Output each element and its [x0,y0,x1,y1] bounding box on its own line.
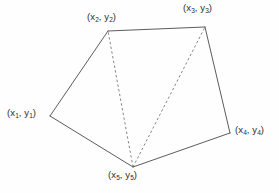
polygon-edge-v5-v1 [50,116,133,167]
vertex-label-v1-sub-x: 1 [15,112,19,119]
vertex-label-v1-close: ) [33,107,36,118]
vertex-label-v1: (x1, y1) [7,108,36,118]
vertex-label-v5-open: (x [108,169,116,180]
vertex-label-v2-sub-y: 2 [109,16,113,23]
vertex-label-v1-sub-y: 1 [29,112,33,119]
vertex-label-v3-sub-x: 3 [191,7,195,14]
polygon-edge-v4-v5 [133,133,230,167]
vertex-label-v4-sub-x: 4 [243,129,247,136]
vertex-label-v2-close: ) [113,11,116,22]
vertex-label-v3-open: (x [183,2,191,13]
vertex-label-v5: (x5, y5) [108,170,137,180]
polygon-edge-v1-v2 [50,31,108,116]
vertex-label-v4-sub-y: 4 [257,129,261,136]
vertex-label-v2-mid: , y [99,11,109,22]
vertex-label-v1-open: (x [7,107,15,118]
vertex-label-v3: (x3, y3) [183,3,212,13]
polygon-diagonal-v5-v2 [108,31,133,167]
vertex-label-v3-close: ) [209,2,212,13]
vertex-label-v5-mid: , y [120,169,130,180]
vertex-label-v2: (x2, y2) [87,12,116,22]
vertex-label-v2-open: (x [87,11,95,22]
vertex-label-v3-mid: , y [195,2,205,13]
vertex-label-v5-sub-x: 5 [116,174,120,181]
polygon-figure: (x1, y1) (x2, y2) (x3, y3) (x4, y4) (x5,… [0,0,279,193]
vertex-label-v1-mid: , y [19,107,29,118]
vertex-label-v5-sub-y: 5 [130,174,134,181]
polygon-edge-v3-v4 [205,27,230,133]
polygon-edge-v2-v3 [108,27,205,31]
vertex-label-v2-sub-x: 2 [95,16,99,23]
vertex-label-v3-sub-y: 3 [205,7,209,14]
vertex-label-v4: (x4, y4) [235,125,264,135]
vertex-label-v4-open: (x [235,124,243,135]
vertex-label-v5-close: ) [134,169,137,180]
polygon-diagram-svg [0,0,279,193]
vertex-label-v4-mid: , y [247,124,257,135]
vertex-label-v4-close: ) [261,124,264,135]
